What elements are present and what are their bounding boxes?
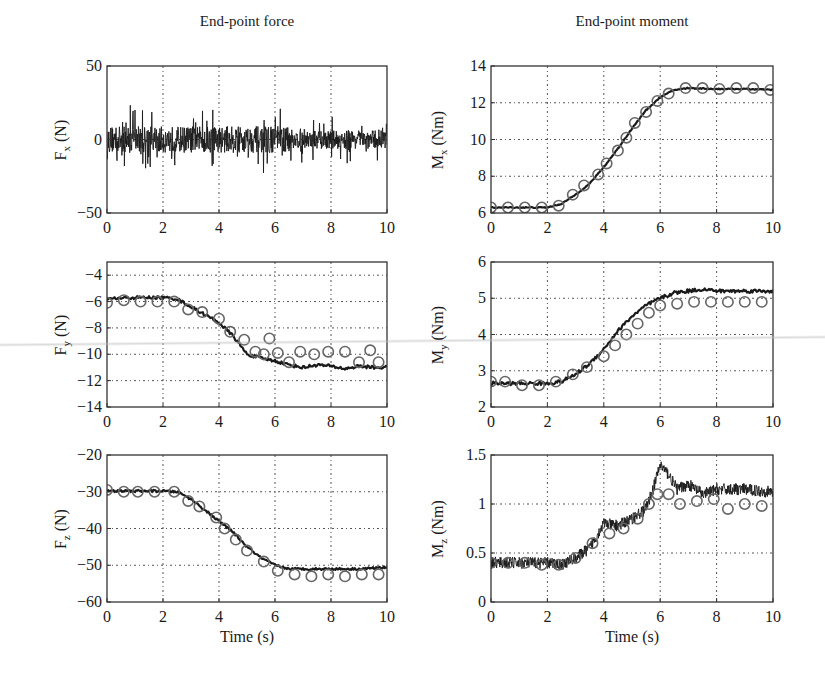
y-tick-label: 1.5 bbox=[466, 446, 486, 463]
x-tick-label: 8 bbox=[327, 413, 335, 430]
y-tick-label: −10 bbox=[77, 345, 102, 362]
series-predicted-markers bbox=[102, 295, 384, 367]
y-tick-label: −30 bbox=[77, 483, 102, 500]
y-tick-label: −50 bbox=[77, 204, 102, 221]
grid-lines bbox=[491, 455, 773, 602]
series-measured-line bbox=[107, 490, 387, 570]
x-tick-label: 2 bbox=[159, 608, 167, 625]
x-tick-label: 4 bbox=[215, 413, 223, 430]
series-predicted-markers bbox=[102, 485, 384, 582]
y-tick-label: 2 bbox=[478, 398, 486, 415]
x-axis-label-moment: Time (s) bbox=[491, 628, 773, 646]
x-tick-label: 4 bbox=[600, 608, 608, 625]
y-tick-label: 6 bbox=[478, 253, 486, 270]
y-axis-label-fz: Fz (N) bbox=[52, 484, 72, 574]
x-tick-label: 4 bbox=[600, 219, 608, 236]
y-tick-label: −14 bbox=[77, 398, 102, 415]
x-tick-label: 0 bbox=[103, 413, 111, 430]
y-tick-label: 0 bbox=[94, 131, 102, 148]
y-tick-label: −60 bbox=[77, 593, 102, 610]
x-tick-label: 6 bbox=[271, 608, 279, 625]
y-axis-label-fy: Fy (N) bbox=[52, 290, 72, 380]
x-tick-label: 8 bbox=[713, 413, 721, 430]
y-tick-label: 8 bbox=[478, 167, 486, 184]
x-tick-label: 4 bbox=[600, 413, 608, 430]
y-axis-label-mx: Mx (Nm) bbox=[429, 95, 449, 185]
subplot-mx: 024681068101214 bbox=[470, 57, 781, 236]
y-tick-label: 10 bbox=[470, 131, 486, 148]
x-tick-label: 8 bbox=[327, 608, 335, 625]
x-tick-label: 10 bbox=[765, 219, 781, 236]
y-tick-label: 50 bbox=[86, 57, 102, 74]
x-tick-label: 10 bbox=[765, 413, 781, 430]
y-tick-label: 5 bbox=[478, 289, 486, 306]
y-tick-label: −4 bbox=[85, 266, 102, 283]
y-tick-label: 0.5 bbox=[466, 544, 486, 561]
x-tick-label: 4 bbox=[215, 608, 223, 625]
y-axis-label-mz: Mz (Nm) bbox=[429, 484, 449, 574]
x-tick-label: 10 bbox=[765, 608, 781, 625]
x-tick-label: 6 bbox=[656, 608, 664, 625]
y-tick-label: 6 bbox=[478, 204, 486, 221]
y-tick-label: −20 bbox=[77, 446, 102, 463]
series-measured-line bbox=[107, 296, 387, 370]
x-tick-label: 2 bbox=[543, 219, 551, 236]
y-tick-label: −40 bbox=[77, 520, 102, 537]
grid-lines bbox=[107, 455, 387, 602]
y-axis-label-my: My (Nm) bbox=[429, 290, 449, 380]
axes-frame bbox=[491, 455, 773, 602]
x-axis-label-force: Time (s) bbox=[107, 628, 387, 646]
subplot-fx: 0246810−50050 bbox=[77, 57, 395, 236]
x-tick-label: 10 bbox=[379, 413, 395, 430]
x-tick-label: 10 bbox=[379, 219, 395, 236]
x-tick-label: 0 bbox=[487, 413, 495, 430]
x-tick-label: 8 bbox=[713, 608, 721, 625]
y-tick-label: −50 bbox=[77, 556, 102, 573]
x-tick-label: 8 bbox=[713, 219, 721, 236]
figure: End-point force End-point moment 0246810… bbox=[0, 0, 825, 691]
series-measured-line bbox=[107, 105, 387, 173]
x-tick-label: 0 bbox=[103, 219, 111, 236]
x-tick-label: 2 bbox=[159, 413, 167, 430]
series-predicted-markers bbox=[486, 83, 776, 213]
x-tick-label: 8 bbox=[327, 219, 335, 236]
tick-labels: 024681000.511.5 bbox=[466, 446, 781, 625]
x-tick-label: 2 bbox=[543, 608, 551, 625]
y-tick-label: 12 bbox=[470, 94, 486, 111]
y-tick-label: 1 bbox=[478, 495, 486, 512]
x-tick-label: 6 bbox=[656, 219, 664, 236]
y-tick-label: −8 bbox=[85, 319, 102, 336]
x-tick-label: 4 bbox=[215, 219, 223, 236]
x-tick-label: 2 bbox=[159, 219, 167, 236]
y-tick-label: 3 bbox=[478, 362, 486, 379]
x-tick-label: 0 bbox=[103, 608, 111, 625]
x-tick-label: 0 bbox=[487, 608, 495, 625]
tick-labels: 0246810−14−12−10−8−6−4 bbox=[77, 266, 395, 430]
y-tick-label: −6 bbox=[85, 293, 102, 310]
x-tick-label: 10 bbox=[379, 608, 395, 625]
x-tick-label: 0 bbox=[487, 219, 495, 236]
series-measured-line bbox=[491, 462, 773, 570]
subplot-mz: 024681000.511.5 bbox=[466, 446, 781, 625]
subplot-fz: 0246810−60−50−40−30−20 bbox=[77, 446, 395, 625]
x-tick-label: 2 bbox=[543, 413, 551, 430]
y-tick-label: −12 bbox=[77, 372, 102, 389]
subplot-fy: 0246810−14−12−10−8−6−4 bbox=[77, 262, 395, 430]
series-predicted-markers bbox=[486, 297, 767, 391]
x-tick-label: 6 bbox=[656, 413, 664, 430]
series-measured-line bbox=[491, 88, 773, 208]
y-axis-label-fx: Fx (N) bbox=[52, 95, 72, 185]
y-tick-label: 0 bbox=[478, 593, 486, 610]
series-predicted-markers bbox=[486, 489, 767, 570]
x-tick-label: 6 bbox=[271, 413, 279, 430]
x-tick-label: 6 bbox=[271, 219, 279, 236]
y-tick-label: 14 bbox=[470, 57, 486, 74]
